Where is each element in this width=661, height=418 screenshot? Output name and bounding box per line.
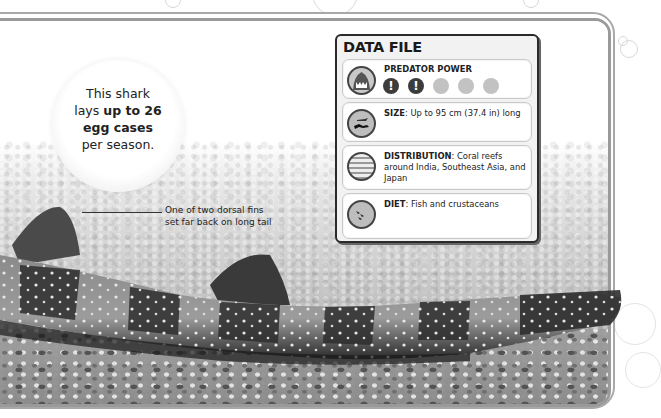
size-card: SIZE: Up to 95 cm (37.4 in) long: [342, 102, 532, 142]
rating-dot-empty: [483, 78, 499, 94]
size-text: SIZE: Up to 95 cm (37.4 in) long: [384, 108, 527, 119]
fact-line: lays: [74, 103, 103, 118]
fact-line: This shark: [86, 86, 150, 101]
predator-power-card: PREDATOR POWER ! !: [342, 59, 532, 99]
predator-power-rating: ! !: [383, 78, 499, 94]
fact-text: This shark lays up to 26 egg cases per s…: [63, 85, 173, 153]
shark-jaws-icon: [347, 66, 376, 95]
diet-card: DIET: Fish and crustaceans: [342, 193, 532, 239]
diet-text: DIET: Fish and crustaceans: [384, 199, 527, 210]
decorative-bubble: [523, 0, 539, 8]
fact-highlight: egg cases: [83, 120, 153, 135]
shark-illustration: [0, 185, 640, 375]
decorative-bubble: [165, 0, 181, 8]
diet-value: : Fish and crustaceans: [406, 199, 499, 209]
rating-dot-filled: !: [383, 78, 399, 94]
distribution-text: DISTRIBUTION: Coral reefs around India, …: [384, 151, 527, 184]
size-key: SIZE: [384, 108, 405, 118]
dorsal-fin-annotation: One of two dorsal fins set far back on l…: [165, 204, 305, 228]
annotation-line-2: set far back on long tail: [165, 217, 272, 227]
fact-line: per season.: [82, 137, 155, 152]
annotation-line-1: One of two dorsal fins: [165, 205, 264, 215]
fact-bubble: This shark lays up to 26 egg cases per s…: [52, 60, 184, 192]
data-file-title: DATA FILE: [343, 39, 532, 56]
fact-highlight: up to 26: [103, 103, 162, 118]
annotation-leader-line: [82, 212, 162, 213]
fish-icon: [347, 200, 376, 229]
ocean-waves-icon: [347, 152, 376, 181]
shark-photo: [0, 185, 640, 375]
predator-power-label: PREDATOR POWER: [384, 64, 472, 74]
rating-dot-empty: [433, 78, 449, 94]
rating-dot-empty: [458, 78, 474, 94]
decorative-bubble: [620, 40, 638, 58]
data-file-panel: DATA FILE PREDATOR POWER ! !: [335, 34, 539, 243]
size-value: : Up to 95 cm (37.4 in) long: [405, 108, 521, 118]
diet-key: DIET: [384, 199, 406, 209]
distribution-card: DISTRIBUTION: Coral reefs around India, …: [342, 145, 532, 190]
distribution-key: DISTRIBUTION: [384, 151, 452, 161]
rating-dot-filled: !: [408, 78, 424, 94]
diver-and-shark-size-icon: [347, 109, 376, 138]
